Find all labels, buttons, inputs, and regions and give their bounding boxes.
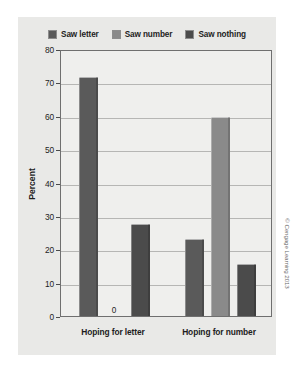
legend-item-saw-number: Saw number [112,30,173,39]
legend-label: Saw number [125,30,173,39]
legend-label: Saw letter [61,30,99,39]
y-axis-tick-label: 60 [32,112,54,122]
copyright-text: © Cengage Learning 2013 [284,218,291,288]
y-axis-tick-label: 10 [32,279,54,289]
y-axis-tick-label: 0 [32,312,54,322]
y-axis-tick-label: 30 [32,212,54,222]
legend-item-saw-letter: Saw letter [48,30,99,39]
bar-left-highlight [237,264,238,316]
bar [237,264,256,316]
legend-label: Saw nothing [198,30,246,39]
bar [79,77,98,316]
y-axis-tick-mark [56,317,60,318]
bar [131,224,150,316]
bar-right-shade [148,224,150,316]
y-axis-tick-label: 20 [32,245,54,255]
x-axis-group-label: Hoping for letter [81,327,144,337]
copyright-credit: © Cengage Learning 2013 [281,250,293,350]
bar-left-highlight [211,117,212,316]
plot-wrapper: 0 [60,50,272,317]
bar-right-shade [254,264,256,316]
chart-legend: Saw letter Saw number Saw nothing [18,25,276,43]
bar-left-highlight [79,77,80,316]
figure-container: Saw letter Saw number Saw nothing Percen… [0,0,301,372]
y-axis-tick-label: 40 [32,179,54,189]
bar [211,117,230,316]
bar-value-label: 0 [112,306,117,315]
bar-right-shade [96,77,98,316]
bar-left-highlight [185,239,186,316]
plot-area: 0 [60,50,272,317]
legend-swatch-icon [48,30,57,39]
y-axis-tick-label: 70 [32,78,54,88]
y-axis-tick-label: 80 [32,45,54,55]
bar-right-shade [228,117,230,316]
legend-item-saw-nothing: Saw nothing [185,30,246,39]
bar-right-shade [202,239,204,316]
legend-swatch-icon [185,30,194,39]
x-axis-group-label: Hoping for number [182,327,256,337]
legend-swatch-icon [112,30,121,39]
bar-left-highlight [131,224,132,316]
bar [185,239,204,316]
y-axis-tick-label: 50 [32,145,54,155]
